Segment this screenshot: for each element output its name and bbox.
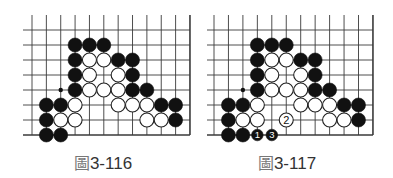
black-stone — [250, 53, 264, 67]
star-point-icon — [241, 88, 245, 92]
black-stone — [352, 113, 366, 127]
black-stone — [250, 38, 264, 52]
white-stone — [323, 113, 337, 127]
black-stone — [294, 53, 308, 67]
white-stone — [265, 53, 279, 67]
figure-caption: 圖3-117 — [258, 150, 316, 174]
white-stone — [236, 113, 250, 127]
black-stone — [250, 68, 264, 82]
numbered-black-stone: 3 — [266, 129, 278, 141]
black-stone — [308, 53, 322, 67]
white-stone — [337, 113, 351, 127]
black-stone — [236, 98, 250, 112]
black-stone — [265, 38, 279, 52]
black-stone — [308, 68, 322, 82]
white-stone — [265, 83, 279, 97]
white-stone — [294, 68, 308, 82]
black-stone — [236, 128, 250, 142]
white-stone — [279, 83, 293, 97]
move-number: 1 — [255, 129, 260, 140]
black-stone — [337, 98, 351, 112]
numbered-white-stone: 2 — [279, 113, 293, 127]
move-number: 2 — [283, 114, 289, 126]
figure-3-117: 213 圖3-117 — [0, 0, 393, 178]
black-stone — [250, 83, 264, 97]
white-stone — [294, 83, 308, 97]
white-stone — [265, 68, 279, 82]
numbered-black-stone: 1 — [252, 129, 264, 141]
white-stone — [323, 98, 337, 112]
white-stone — [279, 53, 293, 67]
white-stone — [308, 98, 322, 112]
white-stone — [250, 98, 264, 112]
black-stone — [221, 128, 235, 142]
go-board-diagram: 213 — [0, 0, 393, 145]
move-number: 3 — [269, 129, 274, 140]
white-stone — [250, 113, 264, 127]
white-stone — [294, 98, 308, 112]
black-stone — [352, 98, 366, 112]
black-stone — [323, 83, 337, 97]
black-stone — [279, 38, 293, 52]
caption-number: 3-117 — [274, 154, 316, 173]
black-stone — [221, 113, 235, 127]
black-stone — [221, 98, 235, 112]
caption-prefix: 圖 — [258, 154, 274, 173]
black-stone — [308, 83, 322, 97]
